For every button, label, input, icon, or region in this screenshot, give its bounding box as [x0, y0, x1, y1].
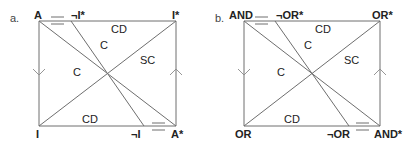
- panel-b-lines: [238, 17, 386, 130]
- corner-b-bottom-mid: ¬OR: [327, 129, 350, 140]
- corner-a-bottom-right: A*: [171, 129, 183, 140]
- edge-a-top: CD: [111, 24, 127, 35]
- edge-b-diag-outer: C: [277, 67, 285, 78]
- edge-a-diag-inner: C: [100, 40, 108, 51]
- panel-a-lines: [33, 17, 182, 130]
- corner-a-top-mid: ¬I*: [71, 10, 85, 21]
- edge-b-diag-rising: SC: [344, 55, 359, 66]
- edge-b-top: CD: [315, 24, 331, 35]
- corner-b-top-left: AND: [229, 10, 253, 21]
- corner-a-bottom-mid: ¬I: [131, 129, 140, 140]
- corner-b-top-mid: ¬OR*: [276, 10, 303, 21]
- corner-a-top-left: A: [34, 10, 42, 21]
- corner-b-top-right: OR*: [372, 10, 393, 21]
- panel-a-label: a.: [10, 12, 19, 24]
- corner-a-top-right: I*: [172, 10, 179, 21]
- corner-b-bottom-left: OR: [235, 129, 252, 140]
- corner-a-bottom-left: I: [36, 129, 39, 140]
- edge-a-bottom: CD: [82, 114, 98, 125]
- diagram-canvas: [0, 0, 410, 148]
- panel-b-label: b.: [215, 12, 224, 24]
- corner-b-bottom-right: AND*: [374, 129, 402, 140]
- edge-b-bottom: CD: [284, 114, 300, 125]
- edge-a-diag-outer: C: [73, 67, 81, 78]
- edge-b-diag-inner: C: [304, 40, 312, 51]
- edge-a-diag-rising: SC: [140, 55, 155, 66]
